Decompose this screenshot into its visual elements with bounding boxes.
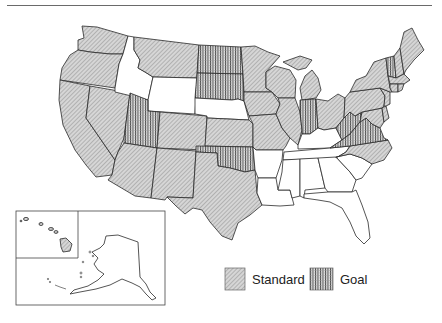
state-hawaii bbox=[20, 217, 72, 252]
state-new-york bbox=[350, 58, 392, 92]
legend: Standard Goal bbox=[225, 268, 368, 290]
state-iowa bbox=[244, 92, 280, 116]
state-florida bbox=[304, 190, 370, 244]
us-map: Standard Goal bbox=[0, 0, 442, 323]
state-rhode-island bbox=[398, 84, 404, 92]
state-alaska bbox=[70, 235, 156, 300]
state-washington bbox=[78, 26, 128, 54]
legend-label-standard: Standard bbox=[252, 272, 305, 287]
state-new-mexico bbox=[151, 148, 196, 200]
state-arkansas bbox=[253, 147, 283, 178]
state-wyoming bbox=[148, 77, 197, 114]
alaska-islands bbox=[47, 251, 93, 289]
state-north-dakota bbox=[197, 45, 243, 74]
state-colorado bbox=[157, 112, 207, 150]
state-kansas bbox=[205, 118, 253, 147]
state-connecticut bbox=[390, 84, 398, 92]
state-indiana bbox=[300, 99, 318, 134]
legend-swatch-goal bbox=[310, 268, 333, 290]
legend-swatch-standard bbox=[225, 268, 245, 290]
state-maine bbox=[400, 28, 424, 74]
state-south-dakota bbox=[195, 73, 244, 101]
legend-label-goal: Goal bbox=[340, 272, 368, 287]
